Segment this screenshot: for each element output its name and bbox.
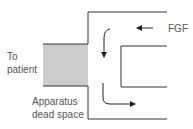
breathing-circuit-diagram: To patient Apparatus dead space FGF [0,0,193,129]
dead-space-label-line2: dead space [32,109,84,120]
apparatus-dead-space-region [43,44,88,86]
flow-down-arrow-icon [104,29,110,57]
outer-tube-bottom-wall [88,86,167,119]
dead-space-label-line1: Apparatus [32,96,78,107]
to-patient-label-line1: To [7,51,18,62]
inner-tube-wall [121,46,167,87]
to-patient-label-line2: patient [7,64,37,75]
fgf-label: FGF [168,23,188,34]
flow-out-arrow-icon [103,83,135,104]
outer-tube-top-wall [88,12,167,44]
